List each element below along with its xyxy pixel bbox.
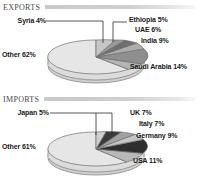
imports-chart: Japan 5% UK 7% Italy 7% Germany 9% USA 1… [0,104,207,184]
imports-label-germany: Germany 9% [136,132,177,140]
exports-pie-chart: Syria 4% Ethiopia 5% UAE 6% India 9% Sau… [0,12,207,92]
exports-chart: Syria 4% Ethiopia 5% UAE 6% India 9% Sau… [0,12,207,92]
imports-section: IMPORTS [0,92,207,184]
exports-label-other: Other 62% [2,51,36,59]
exports-label-uae: UAE 6% [135,26,161,34]
exports-label-india: India 9% [141,37,169,45]
imports-label-japan: Japan 5% [0,109,49,117]
imports-label-italy: Italy 7% [139,120,164,128]
exports-section: EXPORTS [0,0,207,92]
imports-header-rule [44,97,195,101]
exports-title: EXPORTS [0,3,40,12]
imports-pie-chart: Japan 5% UK 7% Italy 7% Germany 9% USA 1… [0,104,207,184]
exports-label-syria: Syria 4% [0,17,46,25]
exports-label-saudi-arabia: Saudi Arabia 14% [130,63,187,71]
exports-header-rule [45,5,195,9]
imports-title: IMPORTS [0,95,39,104]
exports-label-ethiopia: Ethiopia 5% [129,16,168,24]
imports-label-other: Other 61% [2,143,36,151]
imports-label-uk: UK 7% [130,109,152,117]
imports-label-usa: USA 11% [133,157,162,165]
